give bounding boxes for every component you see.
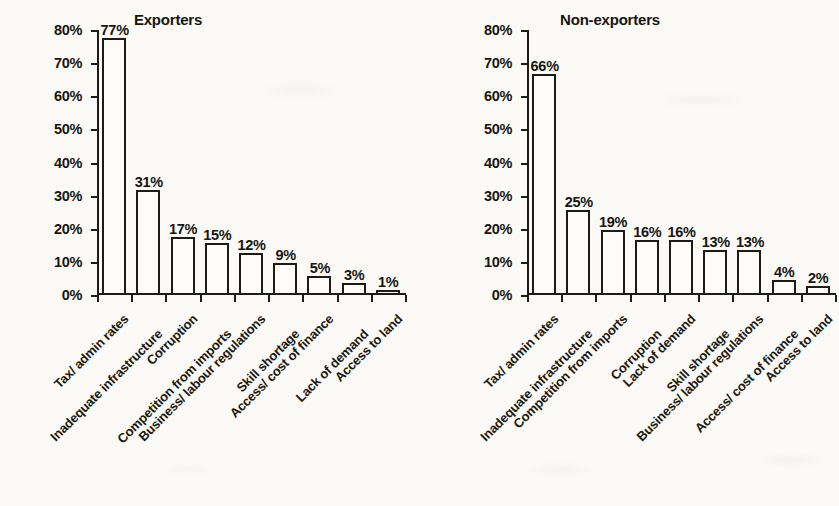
y-axis-tick-label: 0% xyxy=(62,287,82,303)
y-axis-tick-label: 10% xyxy=(54,254,82,270)
x-axis-category-label: Tax/ admin rates xyxy=(121,311,132,322)
y-axis-tick: 50% xyxy=(521,129,527,131)
category-label-text: Competition from imports xyxy=(114,326,234,446)
bar: 9% xyxy=(273,263,297,293)
x-axis-category-label: Business/ labour regulations xyxy=(258,311,269,322)
x-axis-tick xyxy=(337,295,339,302)
category-label-text: Tax/ admin rates xyxy=(51,311,131,391)
x-axis-category-label: Skill shortage xyxy=(722,326,733,337)
y-axis-tick: 10% xyxy=(91,262,97,264)
x-axis-category-label: Corruption xyxy=(189,311,200,322)
x-axis-category-label: Lack of demand xyxy=(688,311,699,322)
bar-value-label: 77% xyxy=(101,22,129,38)
bar-value-label: 1% xyxy=(378,274,398,290)
category-label-text: Access to land xyxy=(332,311,406,385)
y-axis-tick: 10% xyxy=(521,262,527,264)
y-axis-line xyxy=(527,30,529,296)
y-axis-tick-label: 70% xyxy=(484,55,512,71)
x-axis-tick xyxy=(165,295,167,302)
y-axis-tick-label: 70% xyxy=(54,55,82,71)
category-label-text: Inadequate infrastructure xyxy=(48,326,166,444)
bar: 25% xyxy=(566,210,590,293)
x-axis-category-label: Tax/ admin rates xyxy=(551,311,562,322)
category-label-text: Access/ cost of finance xyxy=(227,311,337,421)
x-axis-tick xyxy=(767,295,769,302)
category-label-text: Corruption xyxy=(143,311,200,368)
x-axis-category-label: Access/ cost of finance xyxy=(326,311,337,322)
x-axis-tick xyxy=(268,295,270,302)
bar-value-label: 31% xyxy=(135,174,163,190)
x-axis-category-label: Inadequate infrastructure xyxy=(585,326,596,337)
category-label-text: Skill shortage xyxy=(234,326,303,395)
x-axis-tick xyxy=(595,295,597,302)
bar-value-label: 15% xyxy=(203,227,231,243)
x-axis-tick xyxy=(561,295,563,302)
x-axis-tick xyxy=(97,295,99,302)
y-axis-tick-label: 40% xyxy=(54,155,82,171)
x-axis-tick xyxy=(698,295,700,302)
category-label-text: Skill shortage xyxy=(664,326,733,395)
x-axis-tick xyxy=(371,295,373,302)
x-axis-category-label: Access/ cost of finance xyxy=(790,326,801,337)
x-axis-category-label: Business/ labour regulations xyxy=(756,311,767,322)
y-axis-tick-label: 80% xyxy=(54,22,82,38)
y-axis-tick: 20% xyxy=(91,229,97,231)
y-axis-tick-label: 60% xyxy=(484,88,512,104)
y-axis-tick: 60% xyxy=(521,96,527,98)
category-label-text: Business/ labour regulations xyxy=(634,311,767,444)
x-axis-tick xyxy=(234,295,236,302)
category-label-text: Competition from imports xyxy=(510,311,630,431)
bar: 17% xyxy=(171,237,195,293)
y-axis-tick: 20% xyxy=(521,229,527,231)
bar-value-label: 13% xyxy=(702,234,730,250)
bar-value-label: 12% xyxy=(238,237,266,253)
category-label-text: Inadequate infrastructure xyxy=(478,326,596,444)
bar: 12% xyxy=(239,253,263,293)
bar-value-label: 3% xyxy=(344,267,364,283)
bar-value-label: 16% xyxy=(668,224,696,240)
x-axis-tick xyxy=(527,295,529,302)
category-label-text: Access/ cost of finance xyxy=(691,326,801,436)
bar-value-label: 16% xyxy=(633,224,661,240)
bar: 31% xyxy=(136,190,160,293)
bar: 4% xyxy=(772,280,796,293)
bar: 5% xyxy=(307,276,331,293)
y-axis-tick-label: 80% xyxy=(484,22,512,38)
category-label-text: Lack of demand xyxy=(620,311,699,390)
x-axis-category-label: Skill shortage xyxy=(292,326,303,337)
chart-non-exporters: Non-exporters 0%10%20%30%40%50%60%70%80%… xyxy=(420,0,839,506)
bar: 2% xyxy=(806,286,830,293)
bar-value-label: 13% xyxy=(736,234,764,250)
plot-area: 0%10%20%30%40%50%60%70%80% 66%25%19%16%1… xyxy=(527,30,835,295)
x-axis-category-label: Competition from imports xyxy=(619,311,630,322)
y-axis-tick: 40% xyxy=(91,163,97,165)
x-axis-category-label: Competition from imports xyxy=(223,326,234,337)
bar-value-label: 25% xyxy=(565,194,593,210)
category-label-text: Corruption xyxy=(607,326,664,383)
y-axis-tick: 50% xyxy=(91,129,97,131)
figure-page: Exporters 0%10%20%30%40%50%60%70%80% 77%… xyxy=(0,0,839,506)
bar-value-label: 5% xyxy=(310,260,330,276)
x-axis-category-label: Inadequate infrastructure xyxy=(155,326,166,337)
bar-value-label: 2% xyxy=(808,270,828,286)
x-axis-tick xyxy=(732,295,734,302)
x-axis-tick xyxy=(131,295,133,302)
bar: 66% xyxy=(532,74,556,293)
bar-value-label: 17% xyxy=(169,221,197,237)
x-axis-tick xyxy=(835,295,837,302)
bar: 3% xyxy=(342,283,366,293)
y-axis-tick-label: 60% xyxy=(54,88,82,104)
y-axis-tick: 60% xyxy=(91,96,97,98)
bar: 77% xyxy=(102,38,126,293)
x-axis-category-label: Access to land xyxy=(395,311,406,322)
y-axis-tick-label: 10% xyxy=(484,254,512,270)
category-label-text: Tax/ admin rates xyxy=(481,311,561,391)
y-axis-line xyxy=(97,30,99,296)
x-axis-tick xyxy=(302,295,304,302)
y-axis-tick: 30% xyxy=(91,196,97,198)
bar: 13% xyxy=(703,250,727,293)
x-axis-category-label: Corruption xyxy=(653,326,664,337)
y-axis-tick: 70% xyxy=(91,63,97,65)
bar-value-label: 19% xyxy=(599,214,627,230)
bar: 15% xyxy=(205,243,229,293)
